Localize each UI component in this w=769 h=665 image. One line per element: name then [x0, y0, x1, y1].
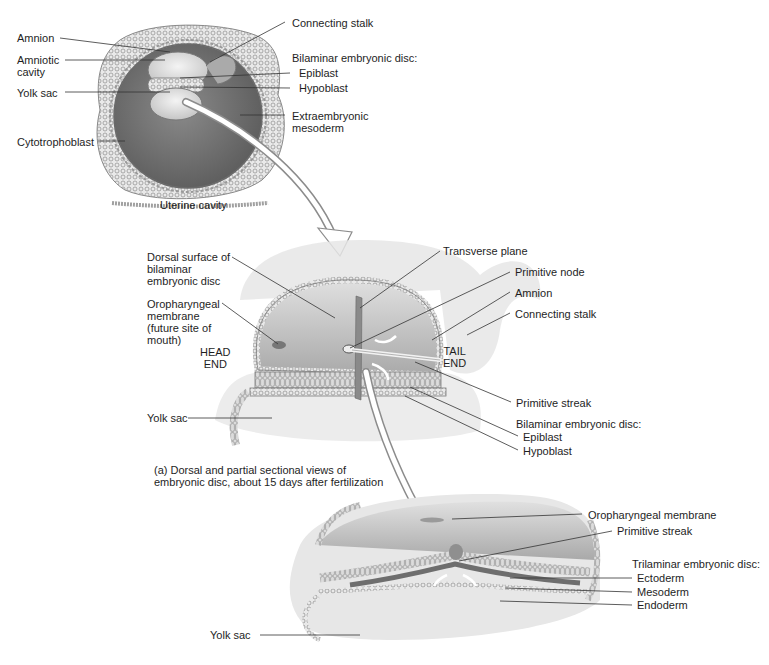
label-ectoderm: Ectoderm — [637, 572, 684, 584]
label-hypoblast-top: Hypoblast — [299, 82, 348, 94]
label-connecting-stalk-top: Connecting stalk — [292, 17, 373, 29]
label-hypoblast-middle: Hypoblast — [523, 445, 572, 457]
figure-caption: (a) Dorsal and partial sectional views o… — [154, 464, 383, 488]
label-oropharyngeal-membrane-middle: Oropharyngeal membrane (future site of m… — [147, 298, 220, 346]
label-tail-end: TAIL END — [443, 345, 466, 369]
label-extraembryonic-mesoderm: Extraembryonic mesoderm — [292, 110, 368, 134]
label-amniotic-cavity: Amniotic cavity — [17, 54, 59, 78]
label-trilaminar-heading: Trilaminar embryonic disc: — [632, 558, 760, 570]
label-amnion-top: Amnion — [17, 32, 54, 44]
trilaminar-disc-drawing — [290, 494, 600, 640]
label-primitive-node: Primitive node — [515, 266, 585, 278]
label-mesoderm: Mesoderm — [637, 586, 689, 598]
label-epiblast-top: Epiblast — [299, 67, 338, 79]
label-uterine-cavity: Uterine cavity — [160, 199, 227, 211]
label-cytotrophoblast: Cytotrophoblast — [17, 136, 94, 148]
label-bilaminar-heading-top: Bilaminar embryonic disc: — [292, 52, 417, 64]
label-oropharyngeal-membrane-bottom: Oropharyngeal membrane — [588, 509, 716, 521]
blastocyst-drawing — [97, 25, 284, 206]
label-primitive-streak-middle: Primitive streak — [516, 397, 591, 409]
label-endoderm: Endoderm — [637, 599, 688, 611]
label-primitive-streak-bottom: Primitive streak — [617, 525, 692, 537]
label-yolk-sac-middle: Yolk sac — [147, 412, 188, 424]
label-connecting-stalk-middle: Connecting stalk — [515, 308, 596, 320]
label-head-end: HEAD END — [200, 346, 231, 370]
label-epiblast-middle: Epiblast — [523, 431, 562, 443]
label-bilaminar-heading-middle: Bilaminar embryonic disc: — [516, 418, 641, 430]
label-yolk-sac-top: Yolk sac — [17, 87, 58, 99]
label-transverse-plane: Transverse plane — [443, 245, 528, 257]
label-yolk-sac-bottom: Yolk sac — [210, 629, 251, 641]
label-dorsal-surface: Dorsal surface of bilaminar embryonic di… — [147, 251, 230, 287]
label-amnion-middle: Amnion — [515, 287, 552, 299]
